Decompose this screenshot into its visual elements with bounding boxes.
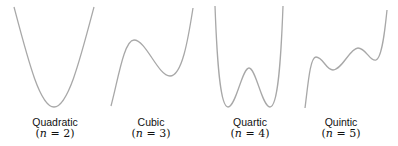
quintic-label: Quintic (n = 5): [301, 117, 381, 139]
degree-label: (n = 3): [111, 128, 191, 139]
cubic-curve: [111, 8, 193, 106]
quintic-curve: [305, 10, 387, 108]
quadratic-curve: [14, 7, 94, 107]
quartic-curve: [215, 6, 283, 107]
degree-label: (n = 4): [210, 128, 290, 139]
cubic-label: Cubic (n = 3): [111, 117, 191, 139]
quadratic-label: Quadratic (n = 2): [15, 117, 95, 139]
degree-label: (n = 2): [15, 128, 95, 139]
quartic-label: Quartic (n = 4): [210, 117, 290, 139]
degree-label: (n = 5): [301, 128, 381, 139]
